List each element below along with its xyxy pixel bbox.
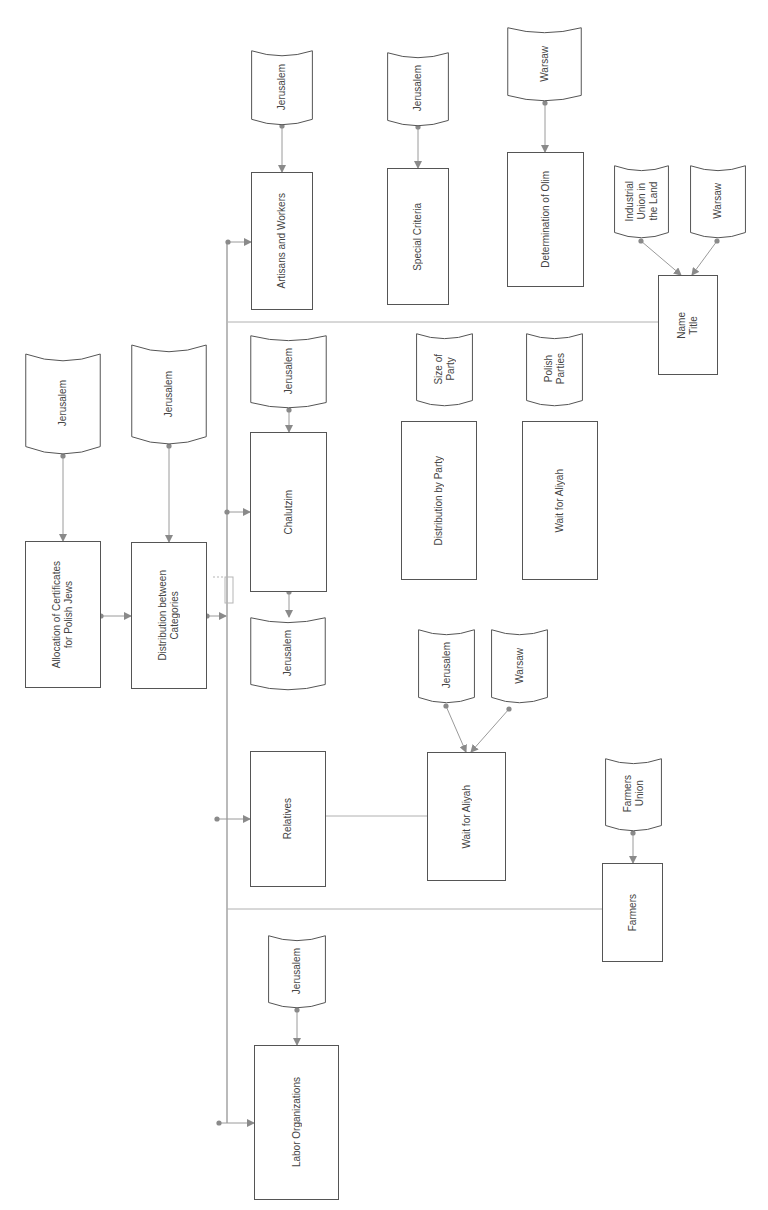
- document-warsaw-wait[interactable]: Warsaw: [491, 629, 548, 705]
- arrow-artisans-src: [279, 123, 284, 172]
- node-label: Wait for Aliyah: [461, 785, 473, 849]
- node-label: Special Criteria: [412, 203, 424, 271]
- arrow-labor-src: [294, 1007, 299, 1045]
- node-label: Name Title: [676, 312, 700, 339]
- bus-bracket: [225, 577, 233, 603]
- process-name-title[interactable]: Name Title: [658, 275, 718, 375]
- node-label: Distribution by Party: [433, 456, 445, 545]
- document-farmers-union[interactable]: Farmers Union: [605, 758, 662, 833]
- node-label: Labor Organizations: [291, 1077, 303, 1167]
- arrow-wait-warsaw: [471, 706, 512, 752]
- arrow-special-src: [415, 124, 420, 168]
- arrow-allocation-src: [60, 453, 65, 541]
- arrow-bus-to-relatives: [214, 816, 250, 821]
- node-label: Wait for Aliyah: [554, 469, 566, 533]
- node-label: Jerusalem: [283, 348, 295, 394]
- node-label: Allocation of Certificates for Polish Je…: [51, 561, 75, 668]
- node-label: Determination of Olim: [540, 171, 552, 268]
- document-industrial-union[interactable]: Industrial Union in the Land: [614, 165, 669, 240]
- node-label: Jerusalem: [163, 371, 175, 417]
- arrow-allocation-to-distribution: [98, 613, 131, 618]
- process-wait-for-aliyah-lower[interactable]: Wait for Aliyah: [427, 752, 506, 881]
- arrow-warsaw-to-name-title: [692, 238, 720, 275]
- process-wait-for-aliyah-upper[interactable]: Wait for Aliyah: [522, 421, 598, 580]
- document-warsaw-name-title[interactable]: Warsaw: [690, 165, 746, 240]
- arrow-farmers-union: [630, 830, 635, 863]
- document-jerusalem-special[interactable]: Jerusalem: [387, 52, 449, 128]
- node-label: Farmers Union: [622, 775, 646, 812]
- node-label: Jerusalem: [441, 642, 453, 688]
- node-label: Warsaw: [712, 183, 724, 219]
- arrow-chalutzim-src: [286, 407, 291, 432]
- node-label: Relatives: [282, 798, 294, 839]
- arrow-chalutzim-out: [286, 589, 291, 617]
- arrow-olim-src: [542, 100, 547, 152]
- process-determination-of-olim[interactable]: Determination of Olim: [507, 152, 584, 287]
- node-label: Farmers: [627, 894, 639, 931]
- node-label: Jerusalem: [412, 65, 424, 111]
- node-label: Jerusalem: [57, 380, 69, 426]
- document-jerusalem-wait[interactable]: Jerusalem: [418, 629, 475, 705]
- process-distribution-between-categories[interactable]: Distribution between Categories: [131, 542, 207, 689]
- document-jerusalem-distribution[interactable]: Jerusalem: [131, 344, 207, 447]
- document-jerusalem-allocation[interactable]: Jerusalem: [25, 353, 101, 457]
- node-label: Size of Party: [433, 354, 457, 385]
- node-label: Industrial Union in the Land: [624, 181, 660, 222]
- process-allocation-of-certificates[interactable]: Allocation of Certificates for Polish Je…: [25, 541, 101, 688]
- arrow-wait-jerusalem: [443, 703, 466, 752]
- arrow-bus-to-artisans: [225, 239, 251, 244]
- arrow-distribution-src: [166, 443, 171, 542]
- node-label: Jerusalem: [276, 64, 288, 110]
- document-polish-parties[interactable]: Polish Parties: [526, 333, 583, 408]
- process-relatives[interactable]: Relatives: [250, 751, 326, 887]
- document-warsaw-olim[interactable]: Warsaw: [507, 27, 582, 103]
- arrow-bus-to-chalutzim: [224, 509, 250, 514]
- process-chalutzim[interactable]: Chalutzim: [250, 432, 327, 592]
- process-special-criteria[interactable]: Special Criteria: [387, 168, 449, 305]
- node-label: Polish Parties: [543, 353, 567, 384]
- node-label: Distribution between Categories: [157, 570, 181, 661]
- process-farmers[interactable]: Farmers: [602, 863, 663, 962]
- document-jerusalem-labor[interactable]: Jerusalem: [268, 935, 326, 1010]
- process-artisans-and-workers[interactable]: Artisans and Workers: [251, 172, 313, 310]
- document-jerusalem-chalutzim-in[interactable]: Jerusalem: [250, 335, 327, 410]
- arrow-bus-to-labor: [216, 1120, 254, 1125]
- node-label: Artisans and Workers: [276, 193, 288, 288]
- node-label: Jerusalem: [291, 948, 303, 994]
- document-jerusalem-chalutzim-out[interactable]: Jerusalem: [250, 617, 326, 692]
- node-label: Chalutzim: [283, 490, 295, 534]
- document-size-of-party[interactable]: Size of Party: [416, 333, 473, 408]
- document-jerusalem-artisans[interactable]: Jerusalem: [251, 50, 313, 127]
- process-distribution-by-party[interactable]: Distribution by Party: [401, 421, 477, 580]
- process-labor-organizations[interactable]: Labor Organizations: [254, 1045, 339, 1200]
- node-label: Warsaw: [514, 648, 526, 684]
- flowchart-canvas: Jerusalem Allocation of Certificates for…: [0, 0, 768, 1210]
- node-label: Jerusalem: [282, 630, 294, 676]
- node-label: Warsaw: [539, 46, 551, 82]
- arrow-industrial-to-name-title: [638, 238, 681, 275]
- arrow-distribution-to-bus: [204, 613, 226, 618]
